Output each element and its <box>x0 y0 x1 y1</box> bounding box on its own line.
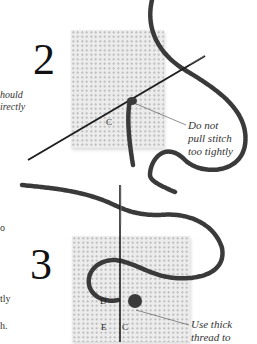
callout-line: thread to <box>191 331 232 344</box>
callout-step-3: Use thick thread to <box>191 318 232 344</box>
needle-step-2 <box>28 56 205 160</box>
label-d-step-3: D <box>100 296 107 306</box>
thread-step-2 <box>150 0 245 192</box>
leader-line-step-2 <box>134 103 186 125</box>
label-c-step-3: C <box>122 322 128 332</box>
needle-eye-step-2 <box>190 56 204 64</box>
label-c-step-2: C <box>106 117 112 127</box>
callout-line: Do not <box>188 119 233 132</box>
leader-line-step-3 <box>136 310 189 325</box>
thread-step-2-lower <box>128 100 133 165</box>
callout-line: pull stitch <box>188 132 233 145</box>
thread-step-3 <box>22 185 222 301</box>
callout-line: too tightly <box>188 145 233 158</box>
callout-line: Use thick <box>191 318 232 331</box>
label-e-step-3: E <box>101 322 107 332</box>
stitch-knot-step-3 <box>128 294 142 308</box>
callout-step-2: Do not pull stitch too tightly <box>188 119 233 158</box>
